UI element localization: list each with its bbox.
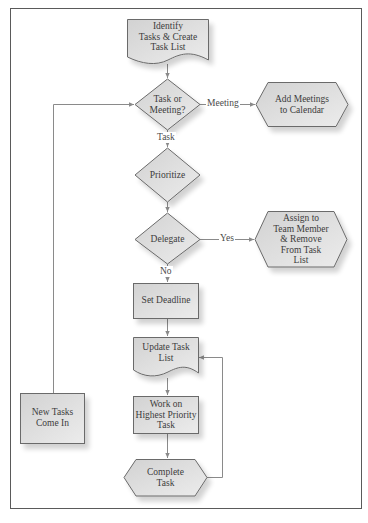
- node-task-or-meeting-shape: [135, 79, 200, 130]
- node-new-tasks-shape: [21, 394, 85, 444]
- node-assign-shape: [255, 212, 347, 268]
- node-set-deadline-shape: [134, 284, 199, 319]
- node-work-on-shape: [134, 397, 199, 434]
- edge-new-tasks-loop: [54, 105, 135, 394]
- edge-label-no: No: [159, 266, 173, 277]
- flowchart-canvas: Identify Tasks & Create Task List Task o…: [0, 0, 368, 523]
- edge-label-task: Task: [156, 132, 176, 143]
- node-identify-shape: [128, 20, 209, 64]
- edge-label-meeting: Meeting: [206, 98, 240, 109]
- node-add-meetings-shape: [256, 83, 348, 127]
- edge-complete-loop: [199, 358, 223, 478]
- node-delegate-shape: [135, 213, 200, 264]
- edge-label-yes: Yes: [219, 233, 235, 244]
- node-complete-task-shape: [124, 460, 207, 497]
- node-prioritize-shape: [135, 148, 200, 202]
- node-update-task-list-shape: [134, 338, 199, 376]
- flowchart-graphics: [0, 0, 368, 523]
